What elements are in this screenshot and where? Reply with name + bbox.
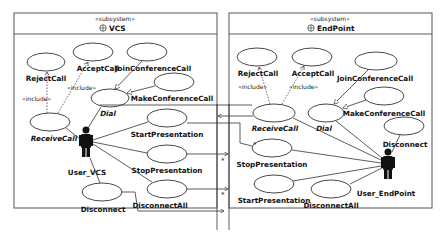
svg-text:MakeConferenceCall: MakeConferenceCall [343,109,426,118]
svg-text:JoinConferenceCall: JoinConferenceCall [114,64,191,73]
svg-text:AcceptCall: AcceptCall [77,64,120,73]
svg-text:StopPresentation: StopPresentation [237,160,308,169]
svg-text:Dial: Dial [316,124,332,133]
svg-text:StartPresentation: StartPresentation [131,130,204,139]
subsystem-vcs[interactable]: «subsystem» VCS RejectCall AcceptCall Jo… [14,13,217,214]
svg-text:ReceiveCall: ReceiveCall [31,134,78,143]
svg-text:RejectCall: RejectCall [238,69,279,78]
include-label: «include» [67,84,96,91]
include-label: «include» [22,95,51,102]
subsystem-endpoint-stereotype: «subsystem» [310,15,350,23]
svg-text:DisconnectAll: DisconnectAll [132,201,187,210]
multiplicity-label: * [221,191,225,199]
subsystem-endpoint-title: EndPoint [317,24,355,33]
svg-text:DisconnectAll: DisconnectAll [303,201,358,210]
subsystem-vcs-stereotype: «subsystem» [95,15,135,23]
subsystem-icon [100,25,106,31]
use-case-reject-call[interactable]: RejectCall [26,53,67,83]
svg-text:StopPresentation: StopPresentation [132,166,203,175]
svg-text:JoinConferenceCall: JoinConferenceCall [336,74,413,83]
svg-text:RejectCall: RejectCall [26,74,67,83]
use-case-reject-call[interactable]: RejectCall [237,48,278,78]
subsystem-vcs-title: VCS [109,24,126,33]
svg-text:User_VCS: User_VCS [68,168,106,177]
include-label: «include» [289,83,318,90]
svg-text:ReceiveCall: ReceiveCall [252,124,299,133]
svg-text:Dial: Dial [100,109,116,118]
include-label: «include» [238,83,267,90]
svg-text:MakeConferenceCall: MakeConferenceCall [131,94,214,103]
multiplicity-label: * [253,141,257,149]
subsystem-endpoint[interactable]: «subsystem» EndPoint RejectCall AcceptCa… [229,13,432,210]
svg-text:User_EndPoint: User_EndPoint [357,189,416,198]
svg-text:AcceptCall: AcceptCall [292,69,335,78]
multiplicity-label: * [221,157,225,165]
use-case-diagram: «subsystem» VCS RejectCall AcceptCall Jo… [0,0,447,233]
subsystem-icon [308,25,314,31]
svg-text:StartPresentation: StartPresentation [238,196,311,205]
svg-text:Disconnect: Disconnect [81,205,126,214]
svg-text:Disconnect: Disconnect [383,140,428,149]
